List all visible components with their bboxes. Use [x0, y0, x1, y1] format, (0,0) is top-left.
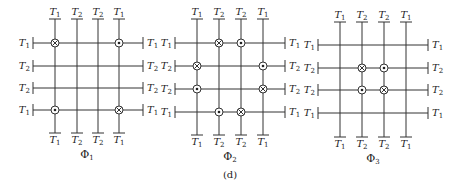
right-label: T2	[147, 82, 158, 95]
current-in-icon	[259, 85, 267, 93]
bottom-label: T1	[113, 134, 124, 147]
grid-diagram: T1T1T2T2T2T2T1T1T1T1T2T2T2T2T1T1Φ1T1T1T2…	[0, 0, 460, 187]
right-label: T2	[289, 83, 300, 96]
current-in-icon	[215, 39, 223, 47]
bottom-label: T1	[49, 134, 60, 147]
bottom-label: T1	[257, 136, 268, 149]
current-in-icon	[193, 62, 201, 70]
right-label: T1	[289, 106, 300, 119]
top-label: T2	[213, 6, 224, 19]
panel-phi1: T1T1T2T2T2T2T1T1T1T1T2T2T2T2T1T1Φ1	[19, 6, 158, 162]
right-label: T1	[147, 104, 158, 117]
panel-label: Φ3	[366, 152, 380, 166]
current-in-icon	[115, 106, 123, 114]
right-label: T2	[432, 84, 443, 97]
right-label: T1	[432, 107, 443, 120]
right-label: T2	[432, 62, 443, 75]
panel-label: Φ2	[223, 150, 237, 164]
left-label: T1	[161, 106, 172, 119]
left-label: T2	[161, 83, 172, 96]
current-in-icon	[380, 86, 388, 94]
right-label: T1	[147, 37, 158, 50]
current-in-icon	[358, 64, 366, 72]
panel-phi2: T1T1T2T2T2T2T1T1T1T1T2T2T2T2T1T1Φ2	[161, 6, 300, 164]
current-out-icon	[215, 108, 223, 116]
current-out-icon	[237, 39, 245, 47]
top-label: T1	[257, 6, 268, 19]
right-label: T2	[147, 60, 158, 73]
right-label: T2	[289, 60, 300, 73]
bottom-label: T1	[334, 138, 345, 151]
current-out-icon	[51, 106, 59, 114]
left-label: T1	[304, 39, 315, 52]
left-label: T1	[19, 37, 30, 50]
current-out-icon	[193, 85, 201, 93]
left-label: T2	[304, 84, 315, 97]
bottom-label: T2	[356, 138, 367, 151]
panel-phi3: T1T1T2T2T2T2T1T1T1T1T2T2T2T2T1T1Φ3	[304, 9, 443, 166]
top-label: T1	[49, 6, 60, 19]
top-label: T2	[378, 9, 389, 22]
left-label: T1	[161, 37, 172, 50]
bottom-label: T2	[92, 134, 103, 147]
current-in-icon	[51, 39, 59, 47]
left-label: T2	[19, 82, 30, 95]
current-out-icon	[259, 62, 267, 70]
bottom-label: T2	[71, 134, 82, 147]
current-out-icon	[358, 86, 366, 94]
bottom-label: T2	[213, 136, 224, 149]
top-label: T2	[71, 6, 82, 19]
bottom-label: T1	[400, 138, 411, 151]
current-out-icon	[115, 39, 123, 47]
bottom-label: T2	[235, 136, 246, 149]
panel-label: Φ1	[80, 148, 94, 162]
current-out-icon	[380, 64, 388, 72]
bottom-label: T1	[191, 136, 202, 149]
top-label: T1	[334, 9, 345, 22]
left-label: T1	[304, 107, 315, 120]
top-label: T2	[356, 9, 367, 22]
left-label: T1	[19, 104, 30, 117]
left-label: T2	[304, 62, 315, 75]
figure-caption-text: (d)	[223, 169, 237, 180]
top-label: T1	[400, 9, 411, 22]
right-label: T1	[289, 37, 300, 50]
top-label: T2	[235, 6, 246, 19]
bottom-label: T2	[378, 138, 389, 151]
top-label: T1	[191, 6, 202, 19]
right-label: T1	[432, 39, 443, 52]
left-label: T2	[161, 60, 172, 73]
top-label: T2	[92, 6, 103, 19]
current-in-icon	[237, 108, 245, 116]
left-label: T2	[19, 60, 30, 73]
top-label: T1	[113, 6, 124, 19]
